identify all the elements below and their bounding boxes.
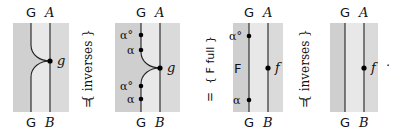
panel-3-middle-region — [249, 23, 268, 112]
equality-3-justification: { inverses } — [298, 29, 312, 103]
equality-1-justification: { inverses } — [81, 29, 95, 103]
panel-2-bottom-label-g: G — [136, 115, 146, 130]
panel-1-bottom-label-g: G — [26, 115, 36, 130]
equality-3: { inverses } = — [298, 29, 312, 108]
panel-2-marker-label-2: α — [127, 44, 135, 57]
string-diagram-equation: g G A G B { inverses } = α° α α° α g G A… — [0, 0, 398, 134]
panel-4-trailing-dot: · — [386, 58, 390, 73]
panel-3-marker-label-2: α — [233, 94, 241, 107]
panel-2-marker-dot-2 — [139, 48, 144, 53]
panel-1-top-label-g: G — [26, 5, 36, 20]
panel-2-top-label-g: G — [136, 5, 146, 20]
panel-3-marker-dot-1 — [247, 34, 252, 39]
panel-4-bottom-label-b: B — [358, 115, 369, 130]
panel-4-morphism-dot — [361, 65, 366, 70]
panel-4-left-region — [330, 23, 345, 112]
panel-1-top-label-a: A — [44, 5, 54, 20]
panel-4: f · G A G B — [330, 5, 390, 130]
panel-3-region-label: F — [234, 61, 241, 76]
panel-4-top-label-g: G — [340, 5, 350, 20]
panel-2-marker-label-4: α — [127, 93, 135, 106]
panel-2-marker-label-3: α° — [120, 80, 133, 93]
panel-3-bottom-label-b: B — [262, 115, 273, 130]
panel-3-top-label-a: A — [262, 5, 272, 20]
equality-2-justification: { F full } — [204, 36, 217, 84]
panel-1: g G A G B — [13, 5, 69, 130]
panel-3-marker-dot-2 — [247, 98, 252, 103]
equality-1: { inverses } = — [81, 29, 95, 108]
equality-1-symbol: = — [81, 98, 95, 108]
panel-2: α° α α° α g G A G B — [115, 5, 180, 130]
panel-3: α° α F f G A G B — [229, 5, 283, 130]
panel-3-top-label-g: G — [244, 5, 254, 20]
panel-1-morphism-dot — [47, 58, 52, 63]
panel-4-middle-region — [345, 23, 364, 112]
panel-1-bottom-label-b: B — [44, 115, 55, 130]
equality-3-symbol: = — [298, 98, 312, 108]
panel-4-top-label-a: A — [358, 5, 368, 20]
panel-2-morphism-dot — [157, 65, 162, 70]
panel-3-marker-label-1: α° — [229, 30, 242, 43]
panel-2-top-label-a: A — [154, 5, 164, 20]
panel-2-marker-dot-4 — [139, 97, 144, 102]
panel-3-bottom-label-g: G — [244, 115, 254, 130]
equality-2-symbol: = — [203, 92, 217, 102]
panel-2-marker-dot-3 — [139, 84, 144, 89]
panel-2-bottom-label-b: B — [154, 115, 165, 130]
equality-2: { F full } = — [203, 36, 217, 102]
panel-4-bottom-label-g: G — [340, 115, 350, 130]
panel-2-marker-dot-1 — [139, 33, 144, 38]
panel-3-morphism-dot — [265, 65, 270, 70]
panel-2-morphism-label: g — [167, 60, 175, 75]
panel-1-morphism-label: g — [57, 53, 65, 68]
panel-2-marker-label-1: α° — [120, 29, 133, 42]
